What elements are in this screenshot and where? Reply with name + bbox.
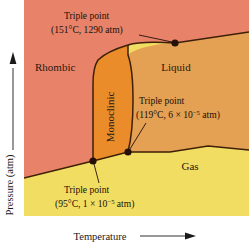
y-axis-label: Pressure (atm) — [4, 154, 16, 215]
triple-point-95c-prefix: (95°C, 1 × 10 — [55, 198, 108, 210]
triple-point-119c-value: (119°C, 6 × 10−5 atm) — [136, 109, 220, 121]
x-axis: Temperature — [74, 231, 196, 242]
y-axis: Pressure (atm) — [4, 52, 16, 215]
triple-point-marker-151c[interactable] — [171, 39, 178, 46]
triple-point-151c-value: (151°C, 1290 atm) — [51, 24, 123, 36]
phase-diagram-canvas: Rhombic Liquid Monoclinic Gas Triple poi… — [0, 0, 249, 252]
triple-point-marker-119c[interactable] — [124, 148, 131, 155]
triple-point-95c-suffix: atm) — [114, 198, 134, 210]
triple-point-119c-prefix: (119°C, 6 × 10 — [136, 109, 193, 121]
triple-point-119c-suffix: atm) — [200, 109, 220, 121]
region-label-monoclinic: Monoclinic — [104, 92, 116, 143]
x-axis-label: Temperature — [74, 231, 127, 242]
triple-point-151c-title: Triple point — [64, 10, 110, 21]
region-label-gas: Gas — [181, 160, 198, 172]
x-axis-arrow-icon — [185, 233, 196, 240]
triple-point-95c-title: Triple point — [64, 184, 110, 195]
region-label-rhombic: Rhombic — [35, 61, 75, 73]
triple-point-119c-title: Triple point — [139, 95, 185, 106]
region-liquid-fill — [128, 32, 249, 152]
triple-point-marker-95c[interactable] — [89, 157, 96, 164]
triple-point-95c-value: (95°C, 1 × 10−5 atm) — [55, 198, 134, 210]
y-axis-arrow-icon — [10, 52, 17, 64]
sulfur-phase-diagram-figure: Rhombic Liquid Monoclinic Gas Triple poi… — [0, 0, 249, 252]
region-label-liquid: Liquid — [161, 61, 191, 73]
